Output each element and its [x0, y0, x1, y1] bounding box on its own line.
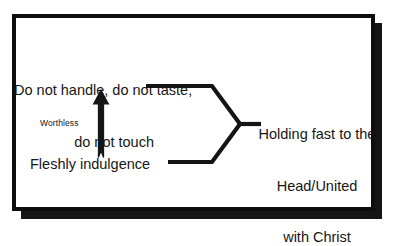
node-outcome-line3: with Christ [256, 229, 378, 246]
node-fleshly-indulgence: Fleshly indulgence [30, 156, 150, 173]
node-outcome-line2: Head/United [256, 178, 378, 195]
node-prohibitions-line2: do not touch [14, 134, 154, 151]
node-outcome: Holding fast to the Head/United with Chr… [256, 92, 378, 246]
node-prohibitions-line1: Do not handle, do not taste, [14, 82, 154, 99]
node-outcome-line1: Holding fast to the [256, 126, 378, 143]
node-worthless-label: Worthless [40, 118, 79, 128]
